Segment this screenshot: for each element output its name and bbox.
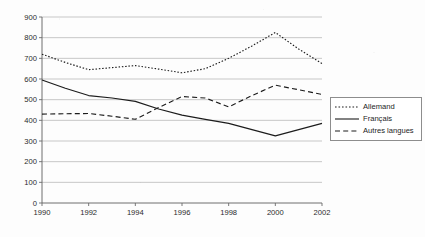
line-chart: 0100200300400500600700800900 19901992199…	[0, 0, 425, 237]
series-line-autres-langues	[42, 85, 322, 119]
chart-canvas: 0100200300400500600700800900 19901992199…	[0, 0, 340, 225]
y-axis	[39, 17, 42, 203]
x-tick-labels: 1990199219941996199820002002	[34, 208, 331, 217]
y-tick-label: 500	[24, 95, 37, 104]
legend-item-francais: Français	[334, 113, 418, 125]
y-tick-label: 400	[24, 116, 37, 125]
y-tick-label: 100	[24, 178, 37, 187]
x-tick-label: 1994	[127, 208, 144, 217]
x-tick-label: 1998	[220, 208, 237, 217]
series-line-allemand	[42, 33, 322, 73]
chart-legend: Allemand Français Autres langues	[330, 97, 422, 141]
legend-item-allemand: Allemand	[334, 101, 418, 113]
legend-label-allemand: Allemand	[363, 102, 395, 112]
legend-item-autres-langues: Autres langues	[334, 125, 418, 137]
plot-area: 0100200300400500600700800900 19901992199…	[0, 0, 340, 225]
legend-swatch-solid-icon	[334, 114, 360, 124]
y-tick-label: 200	[24, 157, 37, 166]
legend-label-francais: Français	[363, 114, 392, 124]
y-tick-label: 800	[24, 33, 37, 42]
legend-label-autres-langues: Autres langues	[363, 126, 414, 136]
x-tick-label: 2002	[314, 208, 331, 217]
series-line-français	[42, 80, 322, 136]
x-axis	[42, 203, 322, 206]
x-tick-label: 1992	[80, 208, 97, 217]
x-tick-label: 2000	[267, 208, 284, 217]
y-tick-label: 0	[33, 199, 37, 208]
x-tick-label: 1996	[174, 208, 191, 217]
x-tick-label: 1990	[34, 208, 51, 217]
y-tick-label: 300	[24, 137, 37, 146]
gridlines	[42, 17, 322, 182]
y-tick-label: 900	[24, 13, 37, 22]
legend-swatch-dashed-icon	[334, 126, 360, 136]
legend-swatch-dotted-icon	[334, 102, 360, 112]
y-tick-labels: 0100200300400500600700800900	[24, 13, 37, 208]
y-tick-label: 700	[24, 54, 37, 63]
y-tick-label: 600	[24, 75, 37, 84]
